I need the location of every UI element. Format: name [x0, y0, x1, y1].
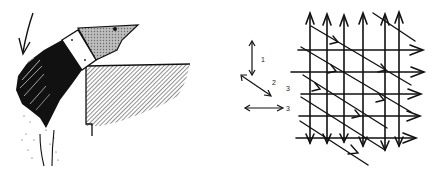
stroke-grid: 3 [285, 0, 433, 179]
grid-side-label: 3 [286, 85, 290, 92]
legend-label-1: 1 [261, 56, 265, 63]
vertical-strokes [306, 12, 403, 150]
brush-svg [0, 0, 200, 179]
painted-surface [86, 64, 190, 136]
legend-label-2: 2 [272, 79, 276, 86]
horizontal-double-arrow-icon [245, 105, 283, 111]
diagonal-double-arrow-icon [241, 75, 271, 96]
vertical-double-arrow-icon [249, 41, 255, 75]
brush-illustration [0, 0, 200, 179]
stroke-direction-arrow-icon [19, 13, 33, 54]
paint-drips [40, 130, 54, 166]
